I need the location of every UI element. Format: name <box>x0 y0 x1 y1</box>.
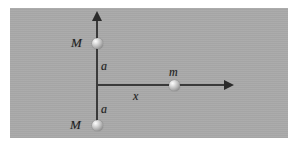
mass-sphere-test-m <box>169 80 180 91</box>
mass-sphere-lower-M <box>92 120 103 131</box>
label-mass-test-m: m <box>169 66 178 78</box>
mass-sphere-upper-M <box>92 38 103 49</box>
label-mass-lower-M: M <box>70 118 81 131</box>
label-distance-a-lower: a <box>101 103 107 115</box>
x-axis-line <box>96 84 228 86</box>
y-axis-arrowhead-icon <box>92 11 102 21</box>
figure-root: M M m a a x <box>0 0 295 145</box>
y-axis-line <box>96 18 98 130</box>
x-axis-arrowhead-icon <box>224 80 234 90</box>
figure-panel <box>10 8 288 138</box>
label-distance-a-upper: a <box>101 60 107 72</box>
label-distance-x: x <box>133 90 138 102</box>
label-mass-upper-M: M <box>71 36 82 49</box>
